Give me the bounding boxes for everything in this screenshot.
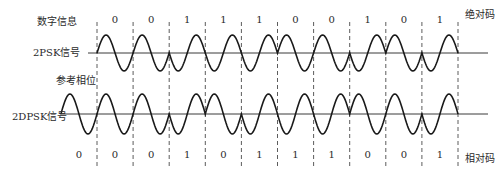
relative-code-label: 相对码 — [465, 153, 495, 165]
relative-code-bit: 0 — [394, 149, 414, 161]
reference-phase-label: 参考相位 — [56, 75, 96, 87]
relative-code-reference-bit: 0 — [69, 149, 89, 161]
absolute-code-bit: 0 — [105, 14, 125, 26]
relative-code-bit: 1 — [286, 149, 306, 161]
absolute-code-bit: 0 — [286, 14, 306, 26]
dpsk-signal-label: 2DPSK信号 — [12, 111, 67, 123]
absolute-code-bit: 1 — [358, 14, 378, 26]
bit-boundary-dashed-lines — [97, 22, 458, 168]
digital-info-label: 数字信息 — [37, 16, 77, 28]
relative-code-bit: 1 — [177, 149, 197, 161]
absolute-code-bit: 0 — [322, 14, 342, 26]
relative-code-bit: 1 — [322, 149, 342, 161]
relative-code-bit: 0 — [105, 149, 125, 161]
psk-signal-label: 2PSK信号 — [33, 47, 80, 59]
relative-code-bit: 1 — [249, 149, 269, 161]
relative-code-bit: 0 — [141, 149, 161, 161]
relative-code-bit: 1 — [430, 149, 450, 161]
relative-code-bit: 0 — [358, 149, 378, 161]
absolute-code-label: 绝对码 — [465, 9, 495, 21]
absolute-code-bit: 0 — [394, 14, 414, 26]
relative-code-bit: 0 — [213, 149, 233, 161]
absolute-code-bit: 1 — [249, 14, 269, 26]
absolute-code-bit: 1 — [177, 14, 197, 26]
absolute-code-bit: 0 — [141, 14, 161, 26]
absolute-code-bit: 1 — [213, 14, 233, 26]
absolute-code-bit: 1 — [430, 14, 450, 26]
